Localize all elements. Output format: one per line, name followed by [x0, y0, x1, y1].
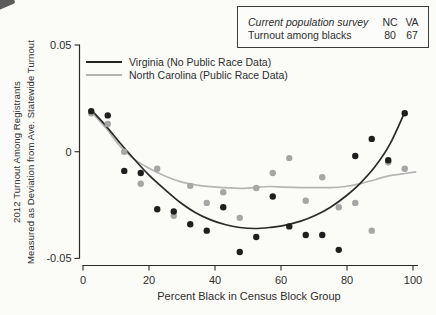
infobox-survey-label: Current population survey — [248, 16, 368, 29]
data-point-nc — [187, 183, 193, 189]
data-point-va — [402, 110, 408, 116]
x-tick-label: 20 — [143, 274, 155, 286]
infobox-turnout-label: Turnout among blacks — [248, 29, 352, 42]
data-point-nc — [286, 155, 292, 161]
data-point-va — [352, 153, 358, 159]
legend-label-virginia: Virginia (No Public Race Data) — [129, 56, 271, 68]
data-point-va — [204, 227, 210, 233]
y-tick-label: 0.05 — [50, 39, 71, 51]
data-point-va — [319, 232, 325, 238]
x-tick-label: 0 — [80, 274, 86, 286]
data-point-nc — [105, 121, 111, 127]
data-point-nc — [220, 189, 226, 195]
infobox-value-va: 67 — [399, 29, 425, 42]
data-point-va — [237, 249, 243, 255]
fit-curve-va — [91, 110, 404, 229]
data-point-va — [303, 232, 309, 238]
infobox-header-va: VA — [399, 16, 425, 29]
data-point-va — [105, 112, 111, 118]
legend-line-north-carolina — [86, 74, 122, 76]
data-point-va — [138, 170, 144, 176]
data-point-nc — [402, 166, 408, 172]
data-point-va — [270, 193, 276, 199]
x-tick-label: 80 — [341, 274, 353, 286]
data-point-va — [187, 221, 193, 227]
data-point-nc — [303, 198, 309, 204]
data-point-va — [171, 208, 177, 214]
legend-item-north-carolina: North Carolina (Public Race Data) — [86, 69, 288, 82]
data-point-nc — [121, 149, 127, 155]
data-point-va — [88, 108, 94, 114]
legend-label-north-carolina: North Carolina (Public Race Data) — [129, 69, 288, 81]
data-point-nc — [138, 181, 144, 187]
data-point-nc — [154, 166, 160, 172]
data-point-va — [253, 234, 259, 240]
data-point-va — [369, 136, 375, 142]
data-point-va — [220, 204, 226, 210]
y-tick-label: 0 — [65, 146, 71, 158]
data-point-nc — [369, 227, 375, 233]
data-point-va — [154, 206, 160, 212]
y-axis-label-line1: 2012 Turnout Among Registrants — [11, 81, 22, 223]
cps-info-box: Current population survey NC VA Turnout … — [237, 6, 429, 48]
x-tick-label: 100 — [404, 274, 422, 286]
data-point-nc — [336, 204, 342, 210]
data-point-nc — [352, 200, 358, 206]
data-point-nc — [319, 174, 325, 180]
y-tick-label: -0.05 — [46, 252, 71, 264]
data-point-va — [121, 168, 127, 174]
data-point-nc — [204, 200, 210, 206]
data-point-va — [385, 157, 391, 163]
chart-legend: Virginia (No Public Race Data) North Car… — [86, 56, 288, 81]
data-point-nc — [270, 170, 276, 176]
data-point-va — [286, 223, 292, 229]
x-axis-label: Percent Black in Census Block Group — [157, 290, 340, 302]
x-tick-label: 40 — [209, 274, 221, 286]
x-tick-label: 60 — [275, 274, 287, 286]
legend-line-virginia — [86, 61, 122, 63]
data-point-nc — [237, 215, 243, 221]
data-point-nc — [253, 185, 259, 191]
statistical-chart-figure: 0204060801000.050-0.05 2012 Turnout Amon… — [0, 0, 436, 315]
legend-item-virginia: Virginia (No Public Race Data) — [86, 56, 288, 69]
data-point-va — [336, 247, 342, 253]
y-axis-label-line2: Measured as Deviation from Ave. Statewid… — [25, 40, 36, 264]
